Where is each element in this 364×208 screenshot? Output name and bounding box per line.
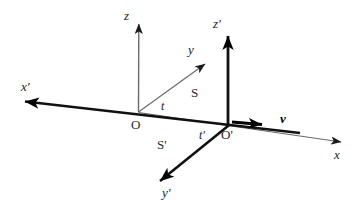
time-t-prime-label: t' (199, 129, 205, 141)
physics-diagram-figure: z z' y y' x x' O O' S S' t t' v (0, 0, 364, 208)
x-prime-axis-label: x' (21, 80, 30, 93)
x-axis-label: x (334, 148, 340, 161)
velocity-vector-arrow (232, 122, 262, 125)
y-prime-axis-line (160, 126, 228, 181)
origin-prime-label: O' (221, 128, 233, 141)
origin-label: O (131, 118, 140, 131)
time-t-label: t (161, 100, 164, 112)
z-axis-label: z (124, 9, 129, 22)
y-axis-label: y (188, 43, 194, 56)
frame-s-label: S (191, 86, 198, 99)
coordinate-axes-svg (0, 0, 364, 208)
z-prime-axis-label: z' (213, 17, 221, 30)
frame-s-prime-label: S' (157, 138, 167, 151)
velocity-label: v (280, 112, 286, 125)
y-prime-axis-label: y' (162, 186, 171, 199)
